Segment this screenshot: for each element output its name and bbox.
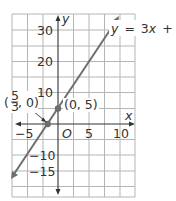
y-tick-10: 10 xyxy=(37,85,53,100)
svg-text:(0, 5): (0, 5) xyxy=(64,97,98,112)
y-axis-arrow-up-icon xyxy=(56,15,61,21)
x-tick-10: 10 xyxy=(113,126,129,141)
y-tick-neg10: −10 xyxy=(29,148,55,163)
x-tick-5: 5 xyxy=(85,126,93,141)
graph: 30 20 10 −10 −15 −5 5 10 O x y y = 3x + … xyxy=(0,0,176,201)
svg-text:(: ( xyxy=(4,95,9,110)
y-tick-neg15: −15 xyxy=(29,164,55,179)
point-y-intercept xyxy=(55,105,61,111)
x-intercept-label: ( 5 3 , 0) xyxy=(4,88,39,114)
y-tick-20: 20 xyxy=(37,54,53,69)
svg-text:, 0): , 0) xyxy=(18,95,39,110)
origin-label: O xyxy=(62,126,72,141)
y-tick-30: 30 xyxy=(37,23,53,38)
y-intercept-label: (0, 5) xyxy=(63,97,99,112)
equation-label: y = 3x + 5 xyxy=(109,20,176,36)
svg-text:y = 3x + 5: y = 3x + 5 xyxy=(110,21,176,36)
x-tick-neg5: −5 xyxy=(15,126,33,141)
y-axis-arrow-down-icon xyxy=(56,189,61,195)
y-axis-label: y xyxy=(61,11,70,26)
x-axis-label: x xyxy=(124,108,133,123)
